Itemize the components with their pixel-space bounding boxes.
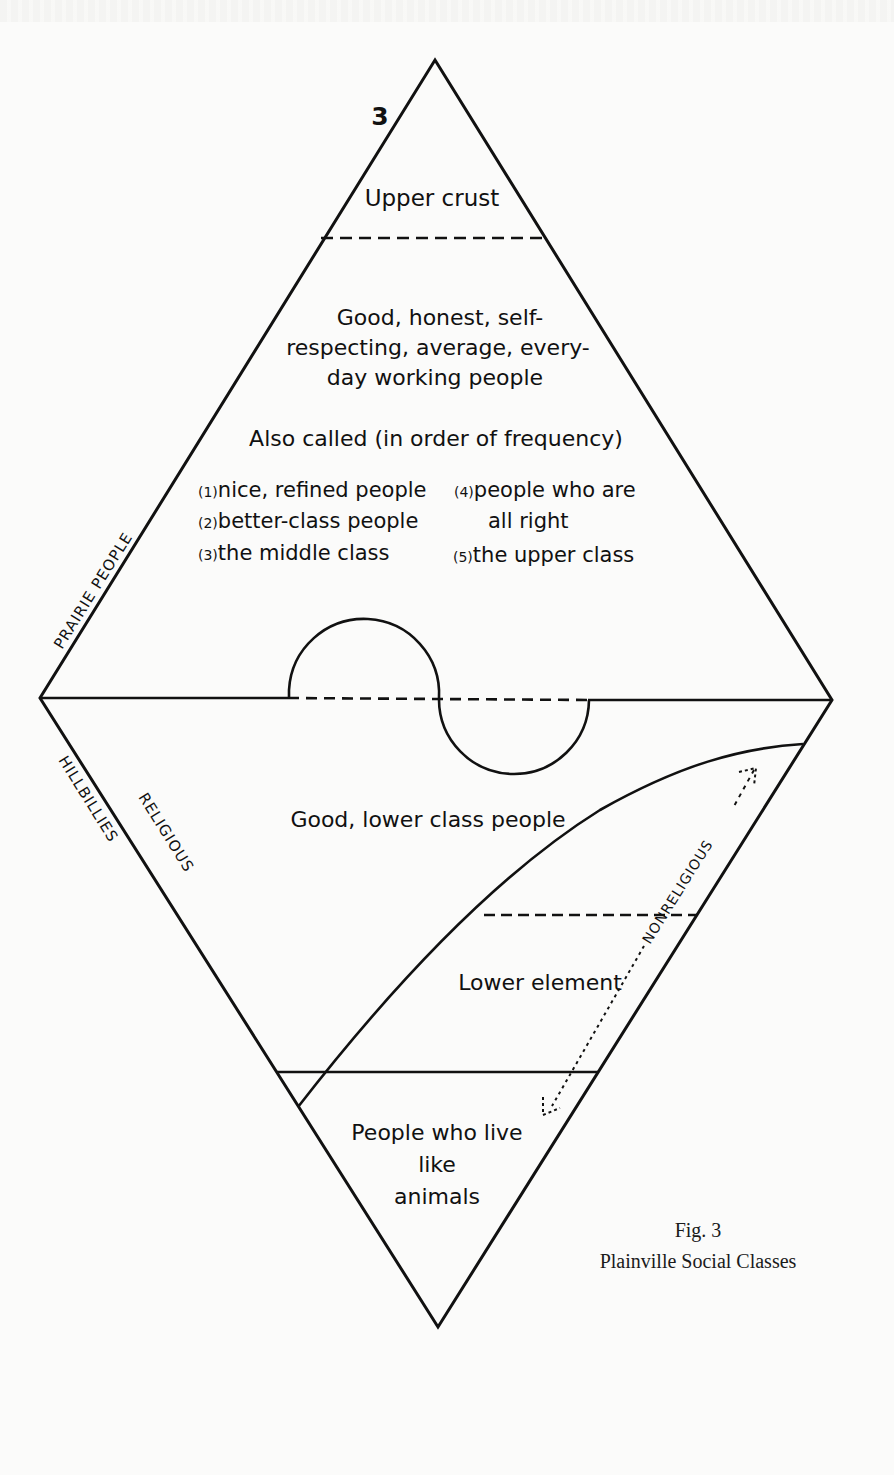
good-honest-line1: Good, honest, self-	[337, 305, 543, 330]
hillbillies-label: HILLBILLIES	[55, 753, 122, 846]
figure-title: Plainville Social Classes	[600, 1250, 797, 1272]
also-called-item-5: (5)the upper class	[453, 543, 634, 567]
also-called-item-2: (2)better-class people	[198, 509, 418, 533]
animals-line2: like	[418, 1152, 456, 1177]
prairie-people-label: PRAIRIE PEOPLE	[50, 529, 136, 652]
also-called-list: (1)nice, refined people (2)better-class …	[198, 478, 636, 567]
lower-element-label: Lower element	[458, 970, 622, 995]
religious-label: RELIGIOUS	[135, 790, 198, 876]
nonreligious-label: NONRELIGIOUS	[639, 837, 716, 947]
animals-line3: animals	[394, 1184, 480, 1209]
good-honest-line2: respecting, average, every-	[286, 335, 590, 360]
also-called-item-3: (3)the middle class	[198, 541, 390, 565]
figure-number: Fig. 3	[675, 1219, 722, 1242]
figure-number-mark: 3	[371, 102, 388, 131]
diagram-labels: 3 Upper crust Good, honest, self- respec…	[0, 0, 894, 1475]
upper-crust-label: Upper crust	[365, 185, 500, 211]
also-called-heading: Also called (in order of frequency)	[249, 426, 623, 451]
also-called-item-1: (1)nice, refined people	[198, 478, 427, 502]
good-honest-line3: day working people	[327, 365, 543, 390]
good-lower-class-label: Good, lower class people	[290, 807, 565, 832]
also-called-item-4: (4)people who are	[454, 478, 636, 502]
also-called-item-4-cont: all right	[488, 509, 569, 533]
animals-line1: People who live	[351, 1120, 522, 1145]
